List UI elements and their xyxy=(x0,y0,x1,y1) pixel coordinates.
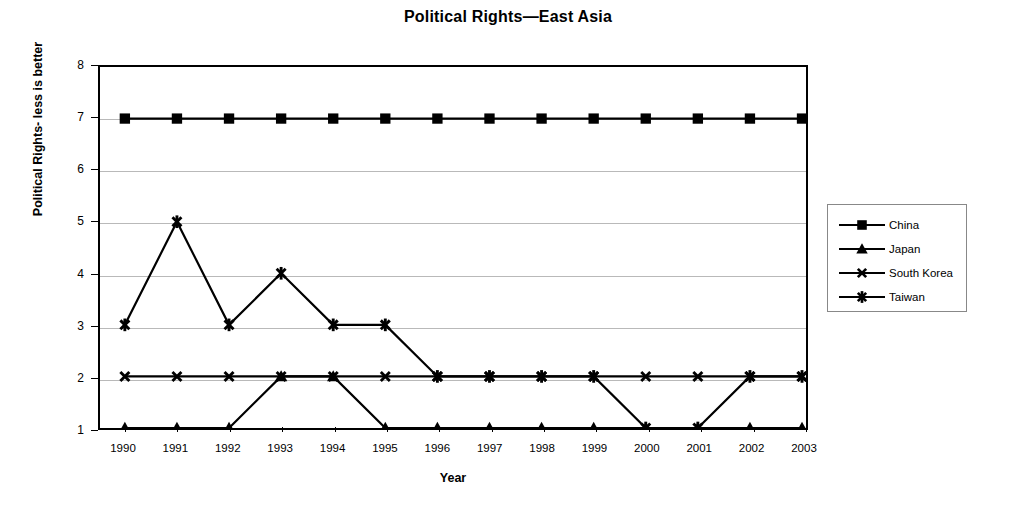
data-point-square xyxy=(484,113,494,123)
x-tick-label: 1996 xyxy=(415,442,459,454)
legend-marker-triangle-icon xyxy=(837,237,887,261)
data-point-square xyxy=(536,113,546,123)
x-tick-label: 1995 xyxy=(363,442,407,454)
data-point-star xyxy=(172,215,181,228)
data-point-square xyxy=(693,113,703,123)
data-point-square xyxy=(276,113,286,123)
legend-marker-square-icon xyxy=(837,213,887,237)
data-point-square xyxy=(172,113,182,123)
legend-item-label: Japan xyxy=(889,242,920,256)
data-point-star xyxy=(225,319,234,332)
series-line xyxy=(125,376,802,428)
y-tick-mark xyxy=(91,430,98,431)
chart-root: Political Rights—East Asia Political Rig… xyxy=(0,0,1016,513)
data-point-square xyxy=(328,113,338,123)
x-tick-label: 1993 xyxy=(258,442,302,454)
x-tick-label: 1994 xyxy=(311,442,355,454)
series-china xyxy=(120,113,806,123)
x-axis-title: Year xyxy=(98,471,808,485)
y-tick-mark xyxy=(91,117,98,118)
data-point-square xyxy=(432,113,442,123)
x-tick-mark xyxy=(806,427,807,432)
legend-item-label: China xyxy=(889,218,919,232)
y-axis-title: Political Rights- less is better xyxy=(31,19,45,239)
x-tick-label: 2000 xyxy=(625,442,669,454)
x-tick-label: 1997 xyxy=(468,442,512,454)
x-tick-label: 1991 xyxy=(153,442,197,454)
x-tick-label: 1990 xyxy=(101,442,145,454)
x-tick-label: 2002 xyxy=(730,442,774,454)
x-tick-label: 2003 xyxy=(782,442,826,454)
y-tick-label: 5 xyxy=(58,215,84,227)
x-tick-label: 2001 xyxy=(677,442,721,454)
y-tick-label: 1 xyxy=(58,424,84,436)
data-point-star xyxy=(277,267,286,280)
series-taiwan xyxy=(120,215,806,428)
x-tick-label: 1998 xyxy=(520,442,564,454)
data-point-square xyxy=(857,220,867,230)
data-point-square xyxy=(641,113,651,123)
legend-item-label: South Korea xyxy=(889,266,953,280)
legend-marker-cross-icon xyxy=(837,261,887,285)
page-title: Political Rights—East Asia xyxy=(0,8,1016,26)
x-tick-label: 1999 xyxy=(572,442,616,454)
data-point-square xyxy=(588,113,598,123)
data-point-star xyxy=(120,319,129,332)
data-point-square xyxy=(797,113,806,123)
y-tick-mark xyxy=(91,378,98,379)
series-japan xyxy=(119,370,806,428)
y-tick-label: 4 xyxy=(58,268,84,280)
legend-item-china[interactable]: China xyxy=(828,213,968,237)
y-tick-label: 8 xyxy=(58,59,84,71)
legend: ChinaJapanSouth KoreaTaiwan xyxy=(827,204,967,312)
y-tick-label: 3 xyxy=(58,320,84,332)
y-tick-mark xyxy=(91,169,98,170)
plot-area xyxy=(98,65,808,430)
y-tick-label: 7 xyxy=(58,111,84,123)
data-point-square xyxy=(224,113,234,123)
data-point-square xyxy=(380,113,390,123)
data-point-square xyxy=(120,113,130,123)
y-tick-mark xyxy=(91,274,98,275)
y-tick-label: 6 xyxy=(58,163,84,175)
y-tick-label: 2 xyxy=(58,372,84,384)
series-line xyxy=(125,222,802,428)
data-point-square xyxy=(745,113,755,123)
series-layer xyxy=(100,67,806,428)
legend-item-taiwan[interactable]: Taiwan xyxy=(828,285,968,309)
legend-item-label: Taiwan xyxy=(889,290,925,304)
x-tick-label: 1992 xyxy=(206,442,250,454)
legend-item-south-korea[interactable]: South Korea xyxy=(828,261,968,285)
y-tick-mark xyxy=(91,65,98,66)
legend-marker-star-icon xyxy=(837,285,887,309)
y-tick-mark xyxy=(91,326,98,327)
y-tick-mark xyxy=(91,221,98,222)
legend-item-japan[interactable]: Japan xyxy=(828,237,968,261)
